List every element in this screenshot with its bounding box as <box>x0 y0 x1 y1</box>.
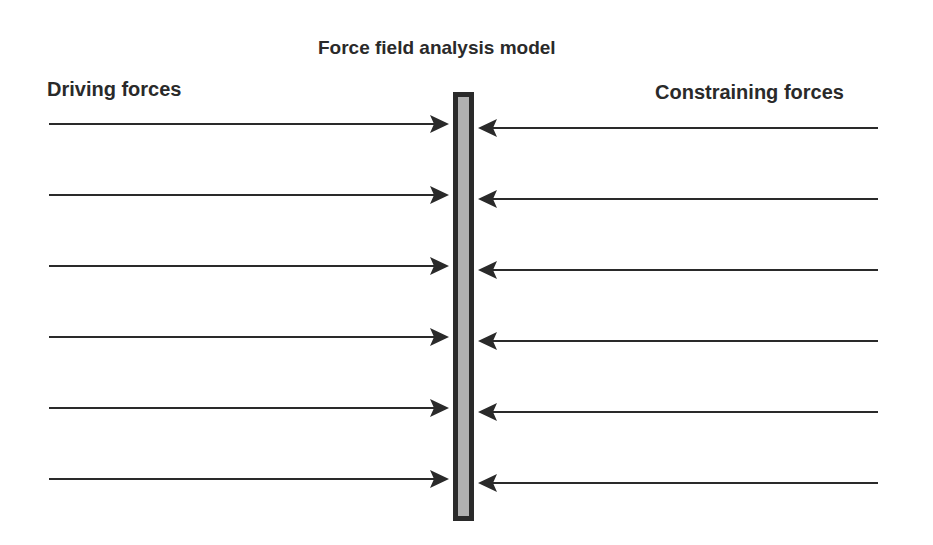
driving-force-arrow <box>49 470 449 488</box>
constraining-force-arrow <box>478 474 878 492</box>
constraining-arrows <box>478 119 878 492</box>
driving-force-arrow <box>49 257 449 275</box>
driving-force-arrow <box>49 328 449 346</box>
status-quo-bar <box>456 95 472 519</box>
constraining-force-arrow <box>478 403 878 421</box>
driving-arrows <box>49 115 449 488</box>
constraining-force-arrow <box>478 190 878 208</box>
driving-force-arrow <box>49 399 449 417</box>
constraining-force-arrow <box>478 119 878 137</box>
constraining-force-arrow <box>478 332 878 350</box>
force-field-diagram <box>0 0 933 545</box>
driving-force-arrow <box>49 186 449 204</box>
driving-force-arrow <box>49 115 449 133</box>
constraining-force-arrow <box>478 261 878 279</box>
